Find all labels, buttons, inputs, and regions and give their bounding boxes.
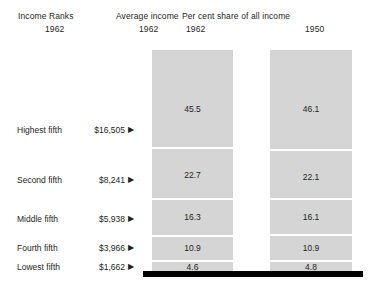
marker-triangle-icon: ▶ bbox=[128, 126, 134, 134]
marker-triangle-icon: ▶ bbox=[128, 244, 134, 252]
marker-triangle-icon: ▶ bbox=[128, 176, 134, 184]
income-value-fourth-fifth: $3,966 bbox=[99, 243, 125, 253]
bar-segment-1962-fourth-fifth: 10.9 bbox=[152, 237, 233, 262]
header-income-ranks-title: Income Ranks bbox=[18, 11, 74, 21]
stacked-bar-1962: 45.5 22.7 16.3 10.9 4.6 bbox=[152, 50, 233, 272]
bar-segment-1950-second-fifth: 22.1 bbox=[270, 151, 352, 200]
baseline-rule bbox=[143, 271, 363, 277]
bar-segment-value: 16.1 bbox=[270, 212, 352, 222]
bar-segment-1950-fourth-fifth: 10.9 bbox=[270, 236, 352, 261]
rank-label-middle-fifth: Middle fifth bbox=[17, 214, 58, 224]
header-average-income-year: 1962 bbox=[139, 24, 158, 34]
bar-segment-value: 22.7 bbox=[152, 170, 233, 180]
income-value-lowest-fifth: $1,662 bbox=[99, 262, 125, 272]
bar-segment-value: 16.3 bbox=[152, 212, 233, 222]
marker-triangle-icon: ▶ bbox=[128, 215, 134, 223]
bar-segment-1962-second-fifth: 22.7 bbox=[152, 149, 233, 200]
stacked-bar-1950: 46.1 22.1 16.1 10.9 4.8 bbox=[270, 50, 352, 272]
bar-segment-1950-middle-fifth: 16.1 bbox=[270, 200, 352, 236]
header-average-income-title: Average income bbox=[116, 11, 179, 21]
bar-segment-1950-highest-fifth: 46.1 bbox=[270, 50, 352, 151]
bar-segment-value: 45.5 bbox=[152, 104, 233, 114]
marker-triangle-icon: ▶ bbox=[128, 263, 134, 271]
bar-segment-value: 10.9 bbox=[152, 243, 233, 253]
bar-segment-value: 22.1 bbox=[270, 172, 352, 182]
header-share-year-1950: 1950 bbox=[305, 24, 324, 34]
income-value-second-fifth: $8,241 bbox=[99, 175, 125, 185]
income-share-chart: Income Ranks 1962 Average income 1962 Pe… bbox=[0, 0, 368, 288]
rank-label-fourth-fifth: Fourth fifth bbox=[17, 243, 58, 253]
header-share-title: Per cent share of all income bbox=[182, 11, 290, 21]
header-share-year-1962: 1962 bbox=[186, 24, 205, 34]
bar-segment-1962-highest-fifth: 45.5 bbox=[152, 50, 233, 149]
rank-label-lowest-fifth: Lowest fifth bbox=[17, 262, 60, 272]
bar-segment-1962-middle-fifth: 16.3 bbox=[152, 200, 233, 237]
bar-segment-value: 10.9 bbox=[270, 243, 352, 253]
income-value-highest-fifth: $16,505 bbox=[94, 125, 125, 135]
bar-segment-value: 46.1 bbox=[270, 104, 352, 114]
header-income-ranks-year: 1962 bbox=[45, 24, 64, 34]
income-value-middle-fifth: $5,938 bbox=[99, 214, 125, 224]
rank-label-highest-fifth: Highest fifth bbox=[17, 125, 62, 135]
rank-label-second-fifth: Second fifth bbox=[17, 175, 62, 185]
